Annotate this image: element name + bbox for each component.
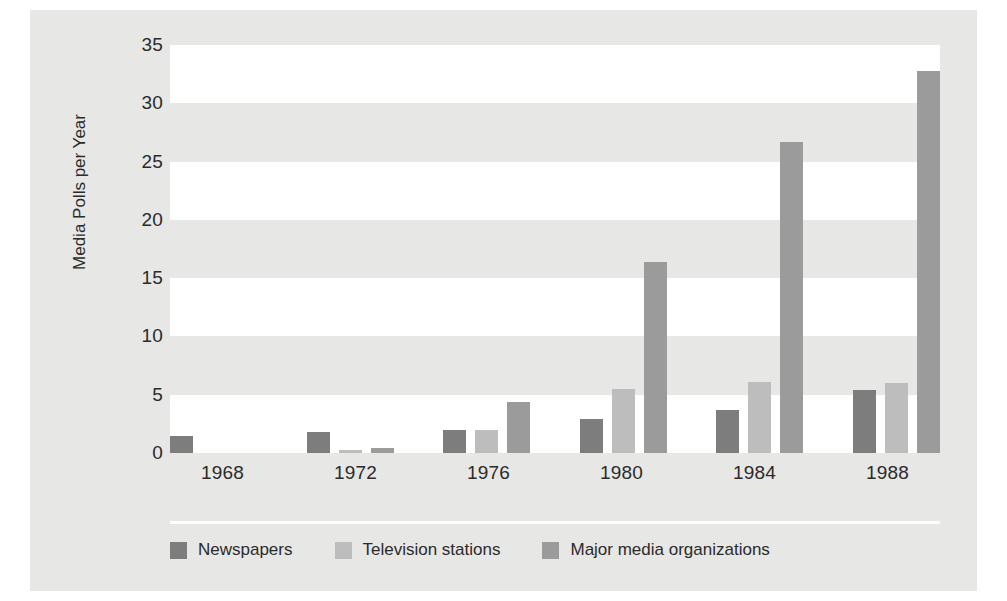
legend-swatch (335, 542, 352, 559)
bar[interactable] (885, 383, 908, 453)
legend-label: Newspapers (198, 540, 293, 560)
legend-swatch (170, 542, 187, 559)
bar-group (853, 45, 940, 453)
x-axis-tick: 1976 (436, 462, 541, 490)
y-axis-tick: 10 (141, 325, 163, 347)
legend-divider (170, 521, 940, 524)
chart-legend: NewspapersTelevision stationsMajor media… (170, 537, 812, 563)
y-axis-tick: 25 (141, 151, 163, 173)
legend-label: Major media organizations (570, 540, 769, 560)
bar[interactable] (507, 402, 530, 453)
bar[interactable] (339, 450, 362, 453)
bar[interactable] (580, 419, 603, 453)
legend-item[interactable]: Television stations (335, 540, 501, 560)
bar[interactable] (644, 262, 667, 453)
bar-groups (170, 45, 940, 453)
x-axis-tick: 1972 (303, 462, 408, 490)
y-axis-tick: 20 (141, 209, 163, 231)
bar[interactable] (780, 142, 803, 453)
x-axis-tick: 1984 (702, 462, 807, 490)
y-axis-tick: 35 (141, 34, 163, 56)
x-axis-tick: 1988 (835, 462, 940, 490)
bar-group (716, 45, 803, 453)
bar-group (307, 45, 394, 453)
bar[interactable] (371, 448, 394, 453)
bar[interactable] (443, 430, 466, 453)
bar-group (580, 45, 667, 453)
legend-swatch (542, 542, 559, 559)
legend-label: Television stations (363, 540, 501, 560)
y-axis-tick: 5 (152, 384, 163, 406)
y-axis-tick: 15 (141, 267, 163, 289)
bar[interactable] (716, 410, 739, 453)
bar-group (170, 45, 257, 453)
bar[interactable] (307, 432, 330, 453)
legend-item[interactable]: Major media organizations (542, 540, 769, 560)
x-axis-tick-labels: 196819721976198019841988 (170, 462, 940, 490)
chart-figure: Media Polls per Year 35302520151050 1968… (30, 10, 977, 591)
y-axis-tick: 0 (152, 442, 163, 464)
bar-group (443, 45, 530, 453)
bar[interactable] (917, 71, 940, 453)
bar[interactable] (612, 389, 635, 453)
y-axis-tick: 30 (141, 92, 163, 114)
y-axis-title: Media Polls per Year (70, 82, 90, 302)
plot-area (170, 45, 940, 453)
x-axis-tick: 1980 (569, 462, 674, 490)
y-axis-tick-labels: 35302520151050 (115, 45, 163, 453)
bar[interactable] (748, 382, 771, 453)
bar[interactable] (170, 436, 193, 453)
bar[interactable] (853, 390, 876, 453)
legend-item[interactable]: Newspapers (170, 540, 293, 560)
x-axis-tick: 1968 (170, 462, 275, 490)
bar[interactable] (475, 430, 498, 453)
